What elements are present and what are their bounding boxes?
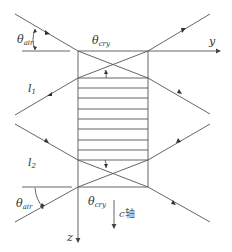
c-axis-label: c轴 <box>119 209 135 219</box>
subscript: cry <box>99 40 110 48</box>
axis-suffix: 轴 <box>125 208 135 219</box>
crystal-refraction-diagram: θair θcry y l1 l2 θair θcry z c轴 <box>0 0 232 252</box>
theta-air-bottom-label: θair <box>16 198 32 211</box>
theta-air-top-label: θair <box>17 34 33 47</box>
subscript: 1 <box>32 88 36 96</box>
subscript: air <box>23 203 33 211</box>
theta-cry-bottom-label: θcry <box>88 196 106 209</box>
ray-l1-in <box>15 78 78 115</box>
ray-bottom-right-out <box>148 187 210 222</box>
theta-symbol: θ <box>88 195 95 208</box>
crystal-stripes <box>78 78 148 160</box>
ray-top-right-out <box>148 14 210 51</box>
theta-symbol: θ <box>16 197 23 210</box>
ray-mid-right-out <box>148 78 210 114</box>
y-axis-label: y <box>209 36 215 47</box>
beam-l2-label: l2 <box>28 157 36 170</box>
subscript: 2 <box>32 162 36 170</box>
diagram-lines <box>0 0 232 252</box>
subscript: cry <box>95 201 106 209</box>
z-axis-label: z <box>67 232 73 243</box>
subscript: air <box>24 39 34 47</box>
theta-symbol: θ <box>92 34 99 47</box>
theta-cry-top-label: θcry <box>92 35 110 48</box>
theta-symbol: θ <box>17 33 24 46</box>
beam-l1-label: l1 <box>28 83 36 96</box>
